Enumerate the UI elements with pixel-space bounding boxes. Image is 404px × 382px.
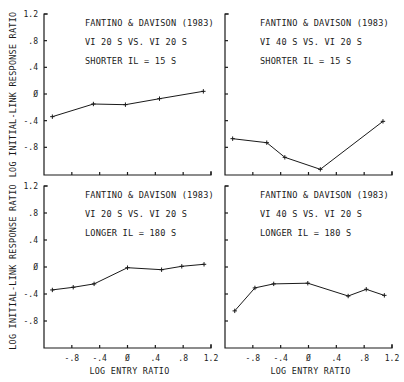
x-tick-label: 1.2 <box>385 354 400 363</box>
x-tick-label: .4 <box>151 354 161 363</box>
data-series-line <box>235 283 385 311</box>
x-tick-label: .4 <box>332 354 342 363</box>
panel-bottom-left: 1.2.8.4Ø-.4-.8-.8-.4Ø.4.81.2FANTINO & DA… <box>8 182 218 376</box>
plus-marker-icon <box>201 89 205 93</box>
x-tick-label: -.8 <box>246 354 261 363</box>
plus-marker-icon <box>125 265 129 269</box>
annotation-line: SHORTER IL = 15 S <box>85 56 176 66</box>
y-tick-label: .4 <box>28 236 38 245</box>
panel-annotation: FANTINO & DAVISON (1983)VI 20 S VS. VI 2… <box>85 18 214 66</box>
panel-annotation: FANTINO & DAVISON (1983)VI 40 S VS. VI 2… <box>260 190 389 238</box>
plus-marker-icon <box>382 293 386 297</box>
y-tick-label: 1.2 <box>24 182 39 191</box>
x-tick-label: 1.2 <box>204 354 219 363</box>
plus-marker-icon <box>123 102 127 106</box>
annotation-line: FANTINO & DAVISON (1983) <box>260 18 389 28</box>
y-tick-label: .4 <box>28 63 38 72</box>
panel-top-left: 1.2.8.4Ø-.4-.8FANTINO & DAVISON (1983)VI… <box>8 10 214 177</box>
annotation-line: LONGER IL = 180 S <box>260 228 351 238</box>
plus-marker-icon <box>272 282 276 286</box>
plus-marker-icon <box>159 268 163 272</box>
y-tick-label: -.8 <box>24 143 39 152</box>
x-tick-label: -.8 <box>65 354 80 363</box>
y-tick-label: -.8 <box>24 317 39 326</box>
plus-marker-icon <box>50 288 54 292</box>
plus-marker-icon <box>364 287 368 291</box>
x-axis-title: LOG ENTRY RATIO <box>270 366 350 376</box>
plus-marker-icon <box>71 285 75 289</box>
annotation-line: VI 20 S VS. VI 20 S <box>85 37 187 47</box>
panel-annotation: FANTINO & DAVISON (1983)VI 20 S VS. VI 2… <box>85 190 214 238</box>
panel-bottom-right: -.8-.4Ø.4.81.2FANTINO & DAVISON (1983)VI… <box>225 186 399 376</box>
data-series-line <box>52 91 203 116</box>
annotation-line: VI 40 S VS. VI 20 S <box>260 37 362 47</box>
annotation-line: FANTINO & DAVISON (1983) <box>85 190 214 200</box>
annotation-line: SHORTER IL = 15 S <box>260 56 351 66</box>
annotation-line: FANTINO & DAVISON (1983) <box>85 18 214 28</box>
plus-marker-icon <box>157 96 161 100</box>
annotation-line: VI 20 S VS. VI 20 S <box>85 209 187 219</box>
x-tick-label: .8 <box>359 354 369 363</box>
plus-marker-icon <box>202 262 206 266</box>
annotation-line: LONGER IL = 180 S <box>85 228 176 238</box>
x-tick-label: Ø <box>306 353 311 363</box>
y-axis-title: LOG INITIAL-LINK RESPONSE RATIO <box>8 12 18 178</box>
plus-marker-icon <box>91 102 95 106</box>
y-tick-label: Ø <box>33 89 38 99</box>
plus-marker-icon <box>230 136 234 140</box>
annotation-line: FANTINO & DAVISON (1983) <box>260 190 389 200</box>
annotation-line: VI 40 S VS. VI 20 S <box>260 209 362 219</box>
axes: 1.2.8.4Ø-.4-.8 <box>24 10 211 175</box>
plus-marker-icon <box>180 264 184 268</box>
panel-annotation: FANTINO & DAVISON (1983)VI 40 S VS. VI 2… <box>260 18 389 66</box>
plus-marker-icon <box>306 281 310 285</box>
plus-marker-icon <box>346 294 350 298</box>
y-tick-label: .8 <box>28 37 38 46</box>
y-axis-title: LOG INITIAL-LINK RESPONSE RATIO <box>8 184 18 350</box>
plus-marker-icon <box>92 282 96 286</box>
y-tick-label: Ø <box>33 262 38 272</box>
y-tick-label: -.4 <box>24 117 39 126</box>
x-axis-title: LOG ENTRY RATIO <box>89 366 169 376</box>
y-tick-label: 1.2 <box>24 10 39 19</box>
x-tick-label: .8 <box>178 354 188 363</box>
data-series-line <box>233 121 383 169</box>
x-tick-label: Ø <box>125 353 130 363</box>
plus-marker-icon <box>50 114 54 118</box>
y-tick-label: .8 <box>28 209 38 218</box>
y-tick-label: -.4 <box>24 290 39 299</box>
x-tick-label: -.4 <box>92 354 107 363</box>
x-tick-label: -.4 <box>273 354 288 363</box>
panel-top-right: FANTINO & DAVISON (1983)VI 40 S VS. VI 2… <box>225 14 392 175</box>
figure-canvas: 1.2.8.4Ø-.4-.8FANTINO & DAVISON (1983)VI… <box>0 0 404 382</box>
